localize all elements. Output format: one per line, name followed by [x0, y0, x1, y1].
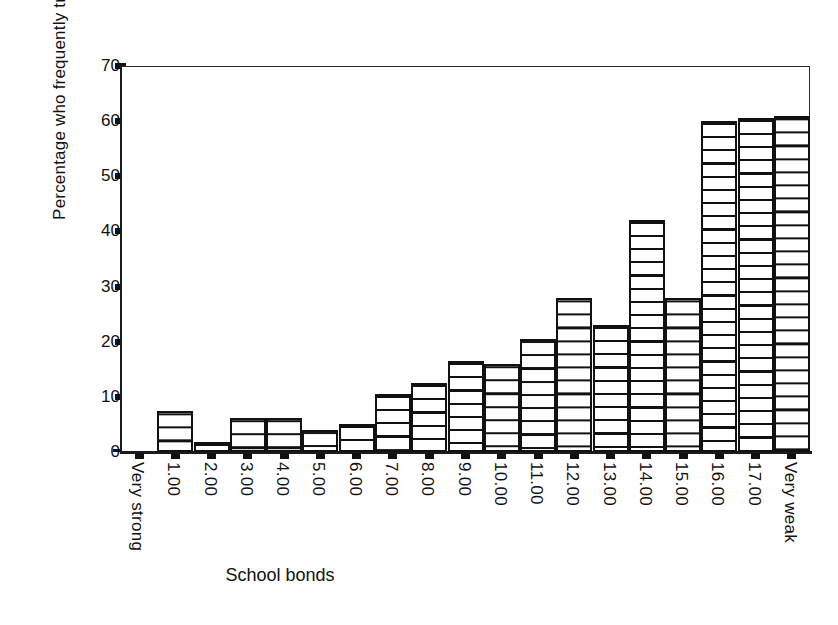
bar — [774, 116, 810, 452]
x-tick-mark — [497, 453, 506, 459]
bar-slot — [194, 66, 230, 452]
y-tick-label: 40 — [84, 222, 120, 239]
bar-slot — [339, 66, 375, 452]
bar — [665, 298, 701, 452]
bar — [194, 442, 230, 452]
x-tick-mark — [787, 453, 796, 459]
x-tick-label: 5.00 — [310, 462, 327, 496]
bar — [738, 118, 774, 452]
x-axis-title: School bonds — [0, 565, 560, 586]
bar-slot — [484, 66, 520, 452]
x-tick-mark — [642, 453, 651, 459]
bar-slot — [701, 66, 737, 452]
bar — [339, 424, 375, 452]
bar-slot — [665, 66, 701, 452]
y-tick-label: 20 — [84, 333, 120, 350]
bar-slot — [375, 66, 411, 452]
x-tick-label: 4.00 — [274, 462, 291, 496]
bar — [266, 418, 302, 452]
x-tick-label: 15.00 — [673, 462, 690, 506]
bar-slot — [556, 66, 592, 452]
bar — [520, 339, 556, 452]
bar — [629, 220, 665, 452]
bar-slot — [629, 66, 665, 452]
x-tick-label: 11.00 — [528, 462, 545, 505]
x-tick-mark — [679, 453, 688, 459]
bar — [556, 298, 592, 452]
bar-series — [121, 66, 810, 452]
x-tick-mark — [207, 453, 216, 459]
bar-slot — [448, 66, 484, 452]
x-tick-label: 6.00 — [347, 462, 364, 496]
x-tick-label: Very strong — [129, 462, 146, 551]
bar — [448, 361, 484, 452]
y-tick-label: 60 — [84, 112, 120, 129]
bar — [484, 364, 520, 452]
x-tick-label: 8.00 — [419, 462, 436, 496]
bar — [375, 394, 411, 452]
bar-slot — [121, 66, 157, 452]
bar — [593, 325, 629, 452]
x-tick-mark — [171, 453, 180, 459]
x-tick-label: 3.00 — [238, 462, 255, 496]
bar-slot — [266, 66, 302, 452]
x-tick-label: 13.00 — [601, 462, 618, 506]
x-tick-mark — [751, 453, 760, 459]
bar-slot — [302, 66, 338, 452]
x-tick-label: Very weak — [782, 462, 799, 543]
y-tick-label: 50 — [84, 167, 120, 184]
x-tick-label: 10.00 — [492, 462, 509, 506]
bar — [157, 411, 193, 452]
bar-slot — [411, 66, 447, 452]
y-axis-ticks: 010203040506070 — [0, 0, 120, 470]
x-tick-mark — [316, 453, 325, 459]
bar-slot — [157, 66, 193, 452]
bar — [230, 418, 266, 452]
y-tick-label: 0 — [84, 443, 120, 460]
bar — [701, 121, 737, 452]
bar-chart-figure: Percentage who frequently truant (3+ tim… — [0, 0, 838, 625]
x-tick-mark — [280, 453, 289, 459]
bar-slot — [738, 66, 774, 452]
x-tick-label: 9.00 — [456, 462, 473, 496]
x-tick-label: 7.00 — [383, 462, 400, 496]
bar — [411, 383, 447, 452]
y-tick-label: 70 — [84, 57, 120, 74]
y-tick-label: 10 — [84, 388, 120, 405]
bar-slot — [593, 66, 629, 452]
x-tick-mark — [135, 453, 144, 459]
x-tick-mark — [425, 453, 434, 459]
x-tick-mark — [570, 453, 579, 459]
x-tick-label: 1.00 — [165, 462, 182, 496]
y-tick-label: 30 — [84, 278, 120, 295]
x-tick-mark — [534, 453, 543, 459]
bar-slot — [230, 66, 266, 452]
x-tick-label: 2.00 — [202, 462, 219, 496]
x-tick-mark — [461, 453, 470, 459]
x-tick-label: 12.00 — [564, 462, 581, 506]
x-tick-label: 17.00 — [746, 462, 763, 506]
x-tick-label: 14.00 — [637, 462, 654, 506]
bar — [302, 430, 338, 452]
x-tick-mark — [388, 453, 397, 459]
x-tick-label: 16.00 — [709, 462, 726, 506]
x-tick-mark — [352, 453, 361, 459]
x-tick-mark — [715, 453, 724, 459]
bar-slot — [520, 66, 556, 452]
bar-slot — [774, 66, 810, 452]
x-tick-mark — [606, 453, 615, 459]
x-tick-mark — [243, 453, 252, 459]
